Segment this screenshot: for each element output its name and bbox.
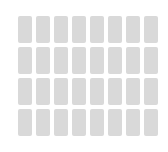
- placeholder-tile: [126, 109, 140, 136]
- placeholder-tile: [90, 109, 104, 136]
- placeholder-grid-screen: [0, 0, 168, 152]
- placeholder-tile: [18, 78, 32, 105]
- placeholder-tile: [36, 78, 50, 105]
- placeholder-tile: [126, 16, 140, 43]
- placeholder-tile: [144, 78, 158, 105]
- placeholder-tile: [108, 78, 122, 105]
- placeholder-tile: [72, 16, 86, 43]
- placeholder-tile: [108, 16, 122, 43]
- placeholder-tile: [54, 16, 68, 43]
- placeholder-tile: [36, 109, 50, 136]
- placeholder-tile: [108, 47, 122, 74]
- placeholder-tile: [90, 16, 104, 43]
- placeholder-tile: [90, 47, 104, 74]
- placeholder-tile: [18, 47, 32, 74]
- placeholder-tile: [18, 16, 32, 43]
- placeholder-tile: [126, 78, 140, 105]
- placeholder-tile: [36, 16, 50, 43]
- placeholder-tile: [72, 109, 86, 136]
- placeholder-tile: [126, 47, 140, 74]
- placeholder-tile: [144, 109, 158, 136]
- placeholder-tile: [18, 109, 32, 136]
- placeholder-tile: [90, 78, 104, 105]
- placeholder-tile: [54, 47, 68, 74]
- placeholder-tile: [72, 78, 86, 105]
- placeholder-tile: [108, 109, 122, 136]
- placeholder-tile: [144, 47, 158, 74]
- placeholder-tile: [36, 47, 50, 74]
- placeholder-card-grid: [18, 16, 158, 136]
- placeholder-tile: [54, 78, 68, 105]
- placeholder-tile: [144, 16, 158, 43]
- placeholder-tile: [72, 47, 86, 74]
- placeholder-tile: [54, 109, 68, 136]
